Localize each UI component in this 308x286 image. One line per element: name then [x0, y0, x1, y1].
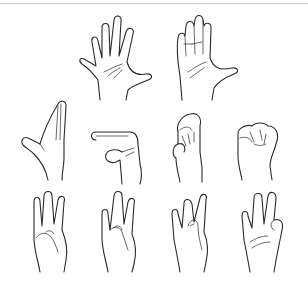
horizontal-flat-hand-icon [90, 128, 148, 184]
three-fingers-thumb-middle-hand-icon [170, 192, 214, 272]
open-palm-spread-hand-icon [78, 14, 158, 100]
three-fingers-thumb-ring-hand-icon [100, 190, 142, 272]
top-border-line [0, 3, 308, 4]
open-palm-fingers-together-hand-icon [168, 14, 244, 100]
vertical-flat-hand-icon [18, 100, 74, 180]
three-fingers-thumb-pinky-hand-icon [240, 190, 286, 272]
bent-fingers-hand-icon [172, 112, 212, 182]
three-fingers-thumb-index-hand-icon [32, 190, 72, 272]
closed-fist-icon [236, 122, 280, 180]
